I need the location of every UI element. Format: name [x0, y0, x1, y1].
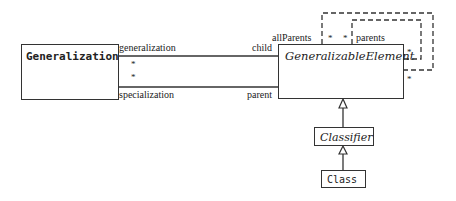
- class-name-generalization: Generalization: [26, 50, 119, 63]
- role-label-parent: parent: [247, 90, 272, 100]
- multiplicity-allparents-top: *: [328, 34, 333, 43]
- class-box-class[interactable]: Class: [321, 170, 366, 188]
- class-box-generalization[interactable]: Generalization: [21, 44, 119, 100]
- role-label-child: child: [252, 43, 272, 53]
- class-box-classifier[interactable]: Classifier: [314, 127, 374, 146]
- class-name-classifier: Classifier: [320, 131, 372, 144]
- uml-diagram: Generalization GeneralizableElement Clas…: [0, 0, 456, 201]
- multiplicity-allparents-side: *: [407, 75, 412, 84]
- class-name-generalizable-element: GeneralizableElement: [285, 49, 414, 63]
- multiplicity-parents-side: *: [407, 48, 412, 57]
- multiplicity-generalization: *: [131, 60, 136, 69]
- multiplicity-specialization: *: [131, 73, 136, 82]
- role-label-parents: parents: [356, 33, 385, 43]
- class-name-class: Class: [327, 174, 357, 185]
- multiplicity-parents-top: *: [343, 34, 348, 43]
- inheritance-arrowhead-icon: [339, 146, 347, 154]
- role-label-all-parents: allParents: [272, 33, 311, 43]
- class-box-generalizable-element[interactable]: GeneralizableElement: [278, 44, 404, 99]
- role-label-specialization: specialization: [119, 90, 174, 100]
- role-label-generalization: generalization: [119, 43, 176, 53]
- connector-layer: [0, 0, 456, 201]
- inheritance-arrowhead-icon: [339, 99, 347, 108]
